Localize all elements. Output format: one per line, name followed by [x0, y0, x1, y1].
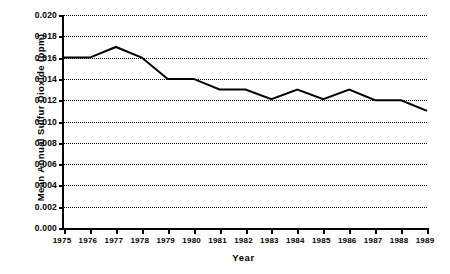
y-axis-tick-label: 0.020	[1, 10, 57, 20]
y-axis-tick	[59, 122, 64, 124]
gridline	[64, 15, 427, 16]
x-axis-tick	[116, 228, 118, 234]
y-axis-tick-label: 0.012	[1, 95, 57, 105]
y-axis-tick	[59, 185, 64, 187]
x-axis-tick	[142, 228, 144, 234]
chart-figure: Mean Annual Sulfur Dioxide (ppm) 0.0000.…	[0, 0, 450, 274]
y-axis-tick-label: 0.004	[1, 180, 57, 190]
x-axis-tick	[194, 228, 196, 234]
gridline	[64, 79, 427, 80]
x-axis-tick	[90, 228, 92, 234]
x-axis-tick	[427, 228, 429, 234]
y-axis-tick-label: 0.002	[1, 202, 57, 212]
y-axis-tick-label: 0.016	[1, 53, 57, 63]
y-axis-tick-label: 0.010	[1, 117, 57, 127]
y-axis-tick	[59, 58, 64, 60]
gridline	[64, 36, 427, 37]
y-axis-tick-label: 0.000	[1, 223, 57, 233]
gridline	[64, 207, 427, 208]
y-axis-tick	[59, 15, 64, 17]
x-axis-tick	[401, 228, 403, 234]
x-axis-title: Year	[62, 252, 425, 263]
x-axis-tick	[375, 228, 377, 234]
y-axis-tick-labels: 0.0000.0020.0040.0060.0080.0100.0120.014…	[0, 0, 60, 274]
x-axis-tick	[220, 228, 222, 234]
y-axis-tick-label: 0.008	[1, 138, 57, 148]
y-axis-tick	[59, 164, 64, 166]
x-axis-tick	[271, 228, 273, 234]
gridline	[64, 185, 427, 186]
gridline	[64, 164, 427, 165]
y-axis-tick	[59, 100, 64, 102]
x-axis-tick	[323, 228, 325, 234]
x-axis-tick	[64, 228, 66, 234]
y-axis-tick	[59, 207, 64, 209]
gridline	[64, 143, 427, 144]
y-axis-tick-label: 0.018	[1, 31, 57, 41]
gridline	[64, 100, 427, 101]
plot-area	[62, 15, 427, 230]
x-axis-tick	[349, 228, 351, 234]
y-axis-tick	[59, 36, 64, 38]
gridline	[64, 122, 427, 123]
x-axis-tick	[246, 228, 248, 234]
y-axis-tick-label: 0.014	[1, 74, 57, 84]
y-axis-tick	[59, 79, 64, 81]
y-axis-tick-label: 0.006	[1, 159, 57, 169]
x-axis-tick-label: 1989	[405, 236, 445, 245]
y-axis-tick	[59, 143, 64, 145]
x-axis-tick	[297, 228, 299, 234]
gridline	[64, 58, 427, 59]
x-axis-tick	[168, 228, 170, 234]
